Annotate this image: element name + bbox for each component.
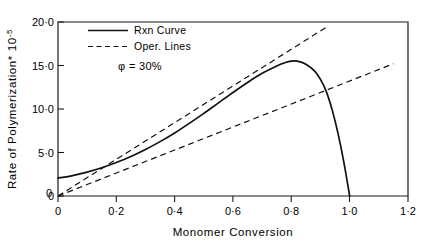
y-tick-label-1: 5·0	[38, 147, 54, 159]
polymerization-rate-chart: 0 5·0 10·0 15·0 20·0 0 0·2 0·4 0·6 0·8 1…	[0, 0, 422, 243]
y-axis-title-multiplier: * 10	[6, 37, 18, 60]
y-axis-ticks	[58, 22, 64, 196]
x-tick-label-0: 0	[55, 205, 61, 217]
x-tick-label-1: 0·2	[108, 205, 124, 217]
y-tick-labels: 0 5·0 10·0 15·0 20·0	[32, 16, 54, 202]
legend-label-oper-lines: Oper. Lines	[134, 40, 191, 52]
x-tick-label-6: 1·2	[400, 205, 416, 217]
x-tick-labels: 0 0·2 0·4 0·6 0·8 1·0 1·2	[55, 205, 416, 217]
series-oper-line-2	[58, 64, 393, 196]
data-series-group	[58, 27, 393, 196]
x-axis-ticks	[58, 196, 408, 202]
x-tick-label-4: 0·8	[283, 205, 299, 217]
chart-figure: 0 5·0 10·0 15·0 20·0 0 0·2 0·4 0·6 0·8 1…	[0, 0, 422, 243]
x-axis-title: Monomer Conversion	[173, 226, 294, 238]
series-rxn-curve	[58, 61, 350, 196]
y-axis-title-main: Rate of Polymerization	[6, 60, 18, 189]
origin-label: 0	[46, 187, 52, 199]
x-tick-label-5: 1·0	[342, 205, 358, 217]
phi-annotation: φ = 30%	[118, 60, 162, 72]
x-tick-label-2: 0·4	[167, 205, 183, 217]
legend-label-rxn-curve: Rxn Curve	[134, 24, 186, 36]
x-tick-label-3: 0·6	[225, 205, 241, 217]
legend: Rxn Curve Oper. Lines φ = 30%	[88, 24, 191, 72]
y-tick-label-3: 15·0	[32, 60, 54, 72]
y-axis-title-group: Rate of Polymerization* 10-5	[5, 29, 18, 189]
y-axis-title-exponent: -5	[5, 29, 14, 37]
y-tick-label-4: 20·0	[32, 16, 54, 28]
series-oper-line-1	[58, 27, 326, 196]
y-axis-title: Rate of Polymerization* 10-5	[5, 29, 18, 189]
y-tick-label-2: 10·0	[32, 103, 54, 115]
plot-frame	[58, 22, 408, 196]
